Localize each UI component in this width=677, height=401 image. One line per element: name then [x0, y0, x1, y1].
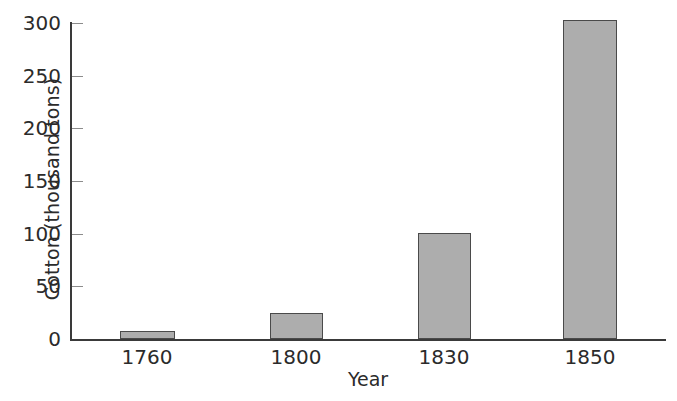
y-tick-mark — [72, 181, 83, 182]
x-tick-label-1760: 1760 — [122, 345, 173, 369]
y-tick-label: 0 — [48, 327, 61, 351]
x-tick-label-1830: 1830 — [419, 345, 470, 369]
y-tick-mark — [72, 23, 83, 24]
plot-area: 300 250 200 150 100 50 0 176 — [70, 23, 666, 339]
y-tick-mark — [72, 234, 83, 235]
x-tick-label-1850: 1850 — [565, 345, 616, 369]
y-tick-label: 100 — [23, 222, 61, 246]
y-tick-label: 50 — [36, 274, 61, 298]
y-tick-mark — [72, 128, 83, 129]
bar-1830 — [418, 233, 471, 339]
y-tick-mark — [72, 76, 83, 77]
y-tick-label: 250 — [23, 64, 61, 88]
y-tick-label: 150 — [23, 169, 61, 193]
y-tick-mark — [72, 286, 83, 287]
x-axis-title: Year — [70, 368, 666, 390]
bar-1800 — [270, 313, 323, 339]
x-tick-label-1800: 1800 — [271, 345, 322, 369]
bar-chart-figure: Cotton (thousand tons) 300 250 200 150 1… — [0, 0, 677, 401]
y-tick-label: 200 — [23, 116, 61, 140]
bar-1850 — [563, 20, 617, 339]
x-axis-spine — [70, 339, 666, 341]
bar-1760 — [120, 331, 175, 339]
y-tick-label: 300 — [23, 11, 61, 35]
